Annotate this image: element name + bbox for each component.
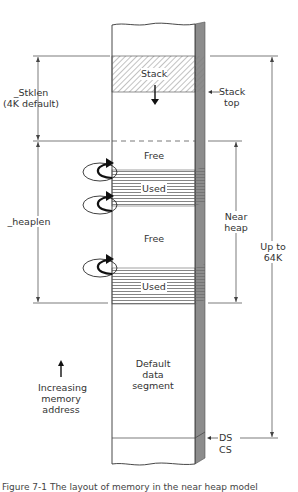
stack-label: Stack [141, 68, 167, 79]
stack-top-line2: top [219, 97, 245, 108]
64k-line: 64K [258, 252, 288, 263]
data-line: data [130, 369, 176, 380]
increasing-memory-label: Increasing memory address [38, 382, 84, 415]
near-line: Near [222, 211, 250, 222]
up-arrow-icon [58, 360, 64, 377]
up-to-line: Up to [258, 241, 288, 252]
free-label-2: Free [140, 233, 168, 244]
ds-pointer [207, 436, 218, 440]
stklen-line2: (4K default) [2, 98, 60, 109]
used-label-1: Used [141, 183, 167, 194]
near-heap-label: Near heap [222, 211, 250, 233]
free-label-1: Free [140, 150, 168, 161]
cs-label: CS [219, 444, 232, 455]
up-to-64k-label: Up to 64K [258, 241, 288, 263]
increasing-line: Increasing [38, 382, 84, 393]
heaplen-label: _heaplen [4, 216, 54, 227]
ds-label: DS [219, 432, 234, 443]
default-data-segment-label: Default data segment [130, 358, 176, 391]
stack-top-line1: Stack [219, 86, 245, 97]
default-line: Default [130, 358, 176, 369]
stklen-label: _Stklen (4K default) [2, 87, 60, 109]
stklen-line1: _Stklen [2, 87, 60, 98]
memory-line: memory [38, 393, 84, 404]
address-line: address [38, 404, 84, 415]
figure-caption: Figure 7-1 The layout of memory in the n… [2, 482, 258, 492]
used-label-2: Used [141, 281, 167, 292]
heap-line: heap [222, 222, 250, 233]
segment-line: segment [130, 380, 176, 391]
stack-top-label: Stack top [219, 86, 245, 108]
